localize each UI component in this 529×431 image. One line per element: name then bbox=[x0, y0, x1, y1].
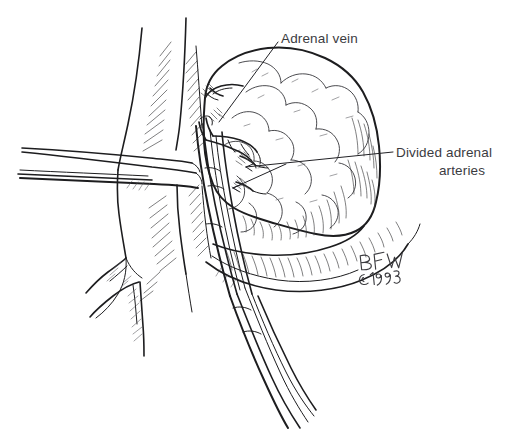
label-divided-adrenal-arteries-line2: arteries bbox=[439, 163, 485, 178]
label-divided-adrenal-arteries-line1: Divided adrenal bbox=[396, 145, 492, 160]
label-adrenal-vein: Adrenal vein bbox=[281, 31, 358, 46]
adrenalectomy-illustration: Adrenal vein Divided adrenal arteries bbox=[0, 0, 529, 431]
illustration-canvas: Adrenal vein Divided adrenal arteries bbox=[0, 0, 529, 431]
